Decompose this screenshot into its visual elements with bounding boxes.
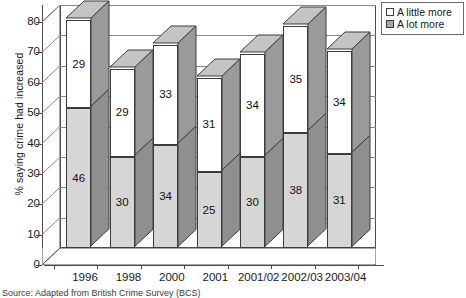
- bar-side-face-lot-more: [178, 126, 196, 246]
- x-axis-tickmark: [228, 265, 229, 269]
- y-tick-label-70: 70: [4, 46, 40, 58]
- bar-segment-little-more: [283, 26, 308, 132]
- y-tick-label-40: 40: [4, 138, 40, 150]
- y-tickmark-60: [36, 83, 42, 84]
- x-axis-tickmark: [358, 265, 359, 269]
- y-tickmark-20: [36, 204, 42, 205]
- y-tickmark-80: [36, 22, 42, 23]
- legend-label-little-more: A little more: [397, 6, 452, 18]
- bar-side-face-lot-more: [135, 138, 153, 246]
- y-tickmark-50: [36, 113, 42, 114]
- bar-2001: 2531: [197, 78, 222, 248]
- y-tickmark-40: [36, 144, 42, 145]
- x-axis-tickmark: [97, 265, 98, 269]
- bar-side-face-lot-more: [352, 135, 370, 246]
- y-tick-label-30: 30: [4, 168, 40, 180]
- x-axis-line: [44, 265, 384, 266]
- y-tick-label-50: 50: [4, 107, 40, 119]
- x-axis-tickmark: [54, 265, 55, 269]
- bar-segment-lot-more: [197, 172, 222, 248]
- bar-segment-lot-more: [240, 157, 265, 248]
- bar-side-face-little-more: [352, 32, 370, 152]
- legend-item-lot-more: A lot more: [386, 18, 459, 30]
- source-note: Source: Adapted from British Crime Surve…: [2, 288, 201, 298]
- bar-segment-lot-more: [283, 133, 308, 248]
- y-tick-label-0: 0: [4, 259, 40, 271]
- x-axis-tickmark: [271, 265, 272, 269]
- plot-area: 4629302934332531303438353134: [42, 5, 376, 265]
- bar-2000: 3433: [153, 45, 178, 249]
- bar-segment-little-more: [240, 54, 265, 157]
- bar-segment-little-more: [110, 69, 135, 157]
- bar-1996: 4629: [66, 20, 91, 248]
- bar-side-face-lot-more: [265, 138, 283, 246]
- y-axis-line: [42, 5, 43, 248]
- bar-segment-little-more: [197, 78, 222, 172]
- bar-1998: 3029: [110, 69, 135, 248]
- bar-segment-lot-more: [327, 154, 352, 248]
- y-tick-label-60: 60: [4, 77, 40, 89]
- bar-segment-little-more: [66, 20, 91, 108]
- bar-segment-lot-more: [153, 145, 178, 248]
- bar-side-face-little-more: [308, 7, 326, 130]
- y-tick-label-10: 10: [4, 229, 40, 241]
- y-tickmark-30: [36, 174, 42, 175]
- y-tickmark-10: [36, 235, 42, 236]
- bar-side-face-little-more: [222, 59, 240, 170]
- x-axis-tickmark: [184, 265, 185, 269]
- bar-2002/03: 3835: [283, 26, 308, 248]
- bar-side-face-little-more: [178, 26, 196, 143]
- x-axis-tick-labels: 19961998200020012001/022002/032003/04: [0, 270, 466, 284]
- legend-label-lot-more: A lot more: [397, 18, 444, 30]
- x-tick-label-2003/04: 2003/04: [318, 272, 374, 284]
- y-tick-label-20: 20: [4, 198, 40, 210]
- bar-side-face-lot-more: [91, 89, 109, 246]
- bar-segment-lot-more: [66, 108, 91, 248]
- bar-side-face-little-more: [265, 35, 283, 155]
- bar-2001/02: 3034: [240, 54, 265, 248]
- bar-side-face-lot-more: [222, 153, 240, 246]
- chart-legend: A little more A lot more: [381, 2, 464, 35]
- x-axis-tickmark: [141, 265, 142, 269]
- y-tickmark-0: [36, 265, 42, 266]
- bar-side-face-lot-more: [308, 114, 326, 246]
- x-axis-tickmark: [315, 265, 316, 269]
- bar-side-face-little-more: [135, 50, 153, 155]
- bar-segment-little-more: [153, 45, 178, 145]
- legend-item-little-more: A little more: [386, 6, 459, 18]
- y-tick-label-80: 80: [4, 16, 40, 28]
- bar-2003/04: 3134: [327, 51, 352, 248]
- y-axis-tick-labels: 01020304050607080: [0, 0, 40, 295]
- bar-segment-lot-more: [110, 157, 135, 248]
- bar-side-face-little-more: [91, 1, 109, 106]
- y-tickmark-70: [36, 52, 42, 53]
- legend-swatch-lot-more-icon: [386, 20, 394, 28]
- bar-segment-little-more: [327, 51, 352, 154]
- legend-swatch-little-more-icon: [386, 8, 394, 16]
